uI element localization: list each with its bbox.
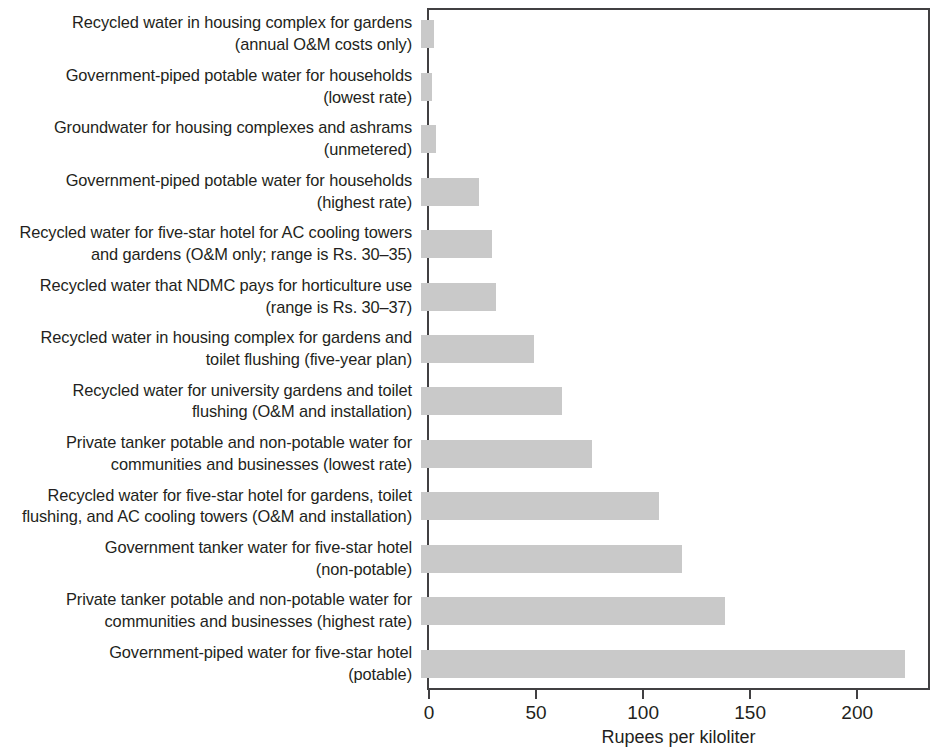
bar-category-label: Private tanker potable and non-potable w… bbox=[0, 432, 420, 476]
bar-category-label: Groundwater for housing complexes and as… bbox=[0, 117, 420, 161]
bar-row: Groundwater for housing complexes and as… bbox=[0, 113, 941, 165]
bar-track bbox=[420, 323, 932, 375]
bar-category-label: Government tanker water for five-star ho… bbox=[0, 537, 420, 581]
bar-row: Government-piped water for five-star hot… bbox=[0, 638, 941, 690]
bar-category-label: Recycled water for university gardens an… bbox=[0, 380, 420, 424]
bar-category-label: Recycled water for five-star hotel for g… bbox=[0, 485, 420, 529]
bar-row: Recycled water in housing complex for ga… bbox=[0, 8, 941, 60]
bar bbox=[421, 178, 479, 206]
bar-track bbox=[420, 60, 932, 112]
bar-track bbox=[420, 113, 932, 165]
bar-track bbox=[420, 585, 932, 637]
bar-track bbox=[420, 533, 932, 585]
bar-track bbox=[420, 218, 932, 270]
x-tick-mark bbox=[749, 690, 751, 699]
bar-row: Recycled water in housing complex for ga… bbox=[0, 323, 941, 375]
bar-row: Government-piped potable water for house… bbox=[0, 60, 941, 112]
bar bbox=[421, 335, 534, 363]
bar bbox=[421, 73, 432, 101]
x-axis-title: Rupees per kiloliter bbox=[427, 727, 930, 748]
bar bbox=[421, 650, 905, 678]
bar-track bbox=[420, 375, 932, 427]
x-tick-mark bbox=[535, 690, 537, 699]
x-tick-label: 0 bbox=[424, 702, 435, 724]
bar-category-label: Recycled water for five-star hotel for A… bbox=[0, 222, 420, 266]
bar bbox=[421, 597, 725, 625]
x-tick-label: 100 bbox=[627, 702, 659, 724]
bar bbox=[421, 387, 562, 415]
x-tick-mark bbox=[856, 690, 858, 699]
bar-row: Recycled water for university gardens an… bbox=[0, 375, 941, 427]
x-tick-label: 200 bbox=[841, 702, 873, 724]
bar-row: Government-piped potable water for house… bbox=[0, 165, 941, 217]
bar-row: Recycled water for five-star hotel for g… bbox=[0, 480, 941, 532]
x-tick-mark bbox=[642, 690, 644, 699]
bar-category-label: Government-piped potable water for house… bbox=[0, 65, 420, 109]
bar-track bbox=[420, 270, 932, 322]
bar-track bbox=[420, 480, 932, 532]
bar-row: Recycled water for five-star hotel for A… bbox=[0, 218, 941, 270]
bar-track bbox=[420, 165, 932, 217]
bar-row: Government tanker water for five-star ho… bbox=[0, 533, 941, 585]
bar bbox=[421, 545, 682, 573]
bar-category-label: Private tanker potable and non-potable w… bbox=[0, 589, 420, 633]
bar bbox=[421, 230, 492, 258]
bar-row: Private tanker potable and non-potable w… bbox=[0, 428, 941, 480]
bar-chart: Recycled water in housing complex for ga… bbox=[0, 0, 941, 753]
x-tick-label: 150 bbox=[734, 702, 766, 724]
bar-category-label: Recycled water in housing complex for ga… bbox=[0, 12, 420, 56]
bar-track bbox=[420, 8, 932, 60]
bar-category-label: Government-piped potable water for house… bbox=[0, 170, 420, 214]
bar bbox=[421, 283, 496, 311]
bar bbox=[421, 20, 434, 48]
bar-row: Recycled water that NDMC pays for hortic… bbox=[0, 270, 941, 322]
bar-track bbox=[420, 428, 932, 480]
bar-rows: Recycled water in housing complex for ga… bbox=[0, 8, 941, 690]
bar bbox=[421, 440, 592, 468]
bar-category-label: Recycled water in housing complex for ga… bbox=[0, 327, 420, 371]
x-axis-ticks: 050100150200 bbox=[427, 690, 930, 700]
bar bbox=[421, 492, 659, 520]
bar-category-label: Recycled water that NDMC pays for hortic… bbox=[0, 275, 420, 319]
x-tick-label: 50 bbox=[525, 702, 546, 724]
bar-category-label: Government-piped water for five-star hot… bbox=[0, 642, 420, 686]
bar bbox=[421, 125, 436, 153]
bar-track bbox=[420, 638, 932, 690]
x-tick-mark bbox=[428, 690, 430, 699]
bar-row: Private tanker potable and non-potable w… bbox=[0, 585, 941, 637]
